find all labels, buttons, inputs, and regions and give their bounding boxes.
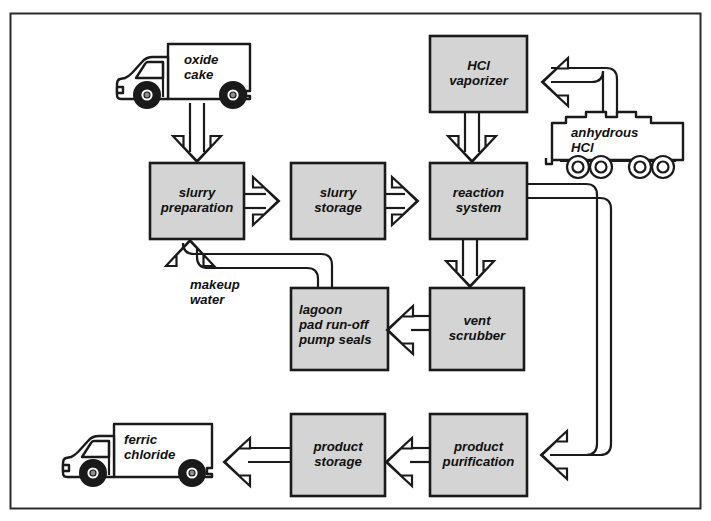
process-box-hcl-vaporizer[interactable] bbox=[430, 36, 527, 112]
process-box-vent-scrubber[interactable] bbox=[430, 288, 524, 370]
process-box-slurry-storage[interactable] bbox=[291, 163, 385, 239]
process-box-slurry-preparation[interactable] bbox=[150, 163, 244, 239]
process-flow-diagram: .box-rect { fill: #d4d4d4; stroke: #1a1a… bbox=[0, 0, 711, 521]
flow-diagram-canvas: .box-rect { fill: #d4d4d4; stroke: #1a1a… bbox=[0, 0, 711, 521]
process-box-reaction-system[interactable] bbox=[430, 163, 527, 239]
process-box-product-purification[interactable] bbox=[430, 414, 527, 496]
process-box-product-storage[interactable] bbox=[291, 414, 385, 496]
process-box-lagoon[interactable] bbox=[291, 288, 388, 370]
